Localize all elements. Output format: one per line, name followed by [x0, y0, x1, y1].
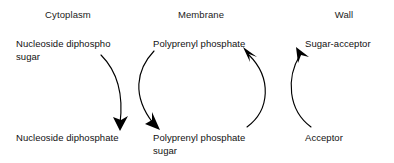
compartment-header-cytoplasm: Cytoplasm [45, 9, 91, 20]
arrow-pp-to-pps [139, 51, 160, 130]
reaction-cycle-diagram: Cytoplasm Membrane Wall Nucleoside dipho… [0, 0, 394, 163]
arrow-head-icon [145, 112, 160, 130]
arrow-head-icon [113, 116, 128, 131]
species-label-polyprenyl-phosphate-sugar: Polyprenyl phosphate sugar [153, 132, 245, 157]
arrow-acceptor-to-sugar-acceptor [291, 47, 311, 127]
arrow-curve [101, 55, 121, 124]
species-label-acceptor: Acceptor [305, 132, 343, 145]
species-label-nucleoside-diphosphate: Nucleoside diphosphate [16, 132, 119, 145]
arrow-curve [291, 55, 311, 127]
species-label-nucleoside-diphospho-sugar: Nucleoside diphospho sugar [16, 38, 110, 63]
compartment-header-membrane: Membrane [178, 9, 224, 20]
arrow-nds-to-ndp [101, 55, 128, 131]
arrow-curve [139, 51, 154, 123]
compartment-header-wall: Wall [335, 9, 354, 20]
arrow-curve [247, 55, 265, 127]
species-label-polyprenyl-phosphate: Polyprenyl phosphate [153, 38, 245, 51]
species-label-sugar-acceptor: Sugar-acceptor [305, 38, 371, 51]
arrow-pps-to-pp [243, 47, 265, 127]
